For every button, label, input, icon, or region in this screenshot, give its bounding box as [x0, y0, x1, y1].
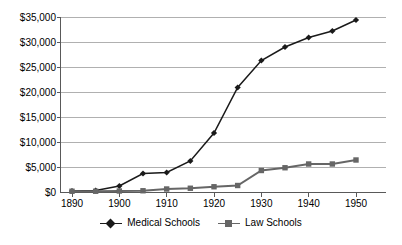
y-axis-tick-label: $15,000 [2, 113, 56, 123]
legend-item-law-schools[interactable]: Law Schools [218, 218, 302, 228]
y-axis-tick-label: $20,000 [2, 88, 56, 98]
chart-legend: Medical Schools Law Schools [0, 218, 402, 228]
y-axis-tick-label: $35,000 [2, 13, 56, 23]
legend-label-law-schools: Law Schools [245, 218, 302, 228]
y-axis-tick-label: $0 [2, 188, 56, 198]
legend-item-medical-schools[interactable]: Medical Schools [100, 218, 200, 228]
x-axis-tick-label: 1950 [336, 199, 376, 209]
x-axis-tick-label: 1930 [241, 199, 281, 209]
y-axis-tick-label: $10,000 [2, 138, 56, 148]
y-axis-tick-label: $5,000 [2, 163, 56, 173]
x-axis-tick-label: 1910 [147, 199, 187, 209]
legend-label-medical-schools: Medical Schools [127, 218, 200, 228]
line-chart: $0$5,000$10,000$15,000$20,000$25,000$30,… [0, 0, 402, 245]
x-axis-tick-label: 1900 [99, 199, 139, 209]
y-axis-tick-label: $25,000 [2, 63, 56, 73]
diamond-marker-icon [100, 219, 122, 228]
gridlines [57, 18, 386, 168]
square-marker-icon [218, 219, 240, 228]
x-axis-tick-label: 1890 [52, 199, 92, 209]
y-axis-tick-label: $30,000 [2, 38, 56, 48]
x-axis-tick-label: 1940 [289, 199, 329, 209]
y-axis-labels: $0$5,000$10,000$15,000$20,000$25,000$30,… [0, 0, 56, 245]
x-axis-tick-label: 1920 [194, 199, 234, 209]
